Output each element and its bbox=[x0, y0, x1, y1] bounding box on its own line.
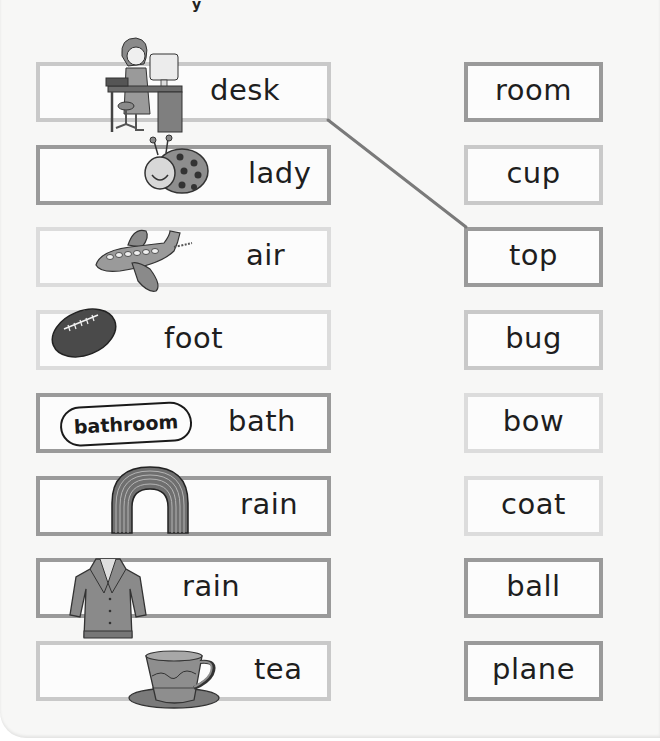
right-box-bug[interactable]: bug bbox=[464, 310, 603, 370]
right-box-bow[interactable]: bow bbox=[464, 393, 603, 453]
bathroom-sign-text: bathroom bbox=[73, 410, 178, 437]
left-word: rain bbox=[182, 569, 240, 603]
right-box-cup[interactable]: cup bbox=[464, 145, 603, 205]
rainbow-icon bbox=[108, 463, 192, 535]
left-word: foot bbox=[164, 321, 223, 355]
left-word: rain bbox=[240, 487, 298, 521]
raincoat-icon bbox=[66, 553, 150, 641]
right-word: plane bbox=[468, 652, 599, 686]
left-word: air bbox=[246, 238, 285, 272]
football-icon bbox=[50, 305, 120, 360]
cropped-heading-fragment: y bbox=[192, 0, 201, 12]
right-box-plane[interactable]: plane bbox=[464, 641, 603, 701]
right-word: cup bbox=[468, 156, 599, 190]
airplane-icon bbox=[90, 225, 195, 295]
left-word: lady bbox=[248, 156, 311, 190]
right-word: ball bbox=[468, 569, 599, 603]
left-word: tea bbox=[254, 652, 302, 686]
right-box-top[interactable]: top bbox=[464, 227, 603, 287]
right-word: bow bbox=[468, 404, 599, 438]
teacup-icon bbox=[128, 648, 224, 714]
right-word: coat bbox=[468, 487, 599, 521]
woman-at-desk-icon bbox=[100, 34, 185, 134]
ladybug-icon bbox=[140, 133, 210, 203]
right-word: bug bbox=[468, 321, 599, 355]
right-word: room bbox=[468, 73, 599, 107]
left-word: desk bbox=[210, 73, 280, 107]
left-word: bath bbox=[228, 404, 296, 438]
right-box-coat[interactable]: coat bbox=[464, 476, 603, 536]
bathroom-sign-icon: bathroom bbox=[59, 401, 193, 448]
right-word: top bbox=[468, 238, 599, 272]
right-box-room[interactable]: room bbox=[464, 62, 603, 122]
right-box-ball[interactable]: ball bbox=[464, 558, 603, 618]
